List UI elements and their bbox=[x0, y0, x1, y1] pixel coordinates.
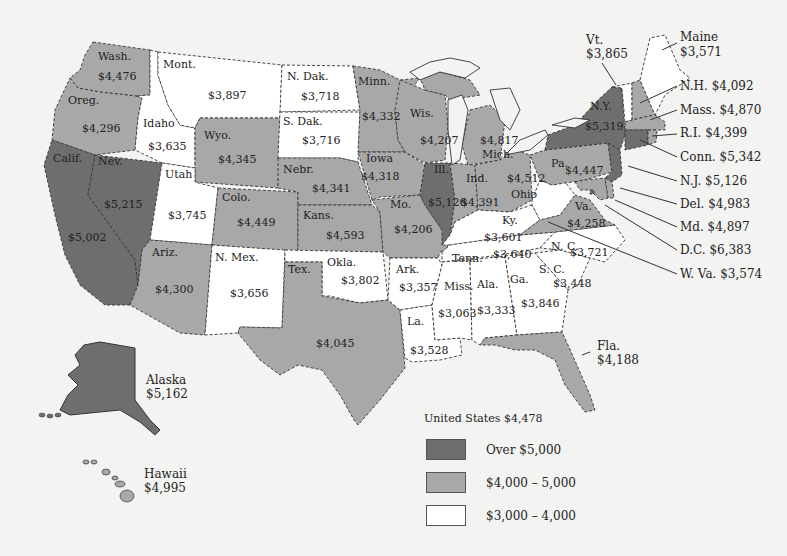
label-hawaii: Hawaii bbox=[144, 467, 187, 481]
label-vt: Vt. bbox=[585, 33, 603, 47]
value-fla: $4,188 bbox=[597, 353, 639, 367]
label-wyo: Wyo. bbox=[204, 129, 231, 142]
label-miss: Miss. bbox=[444, 280, 474, 293]
label-okla: Okla. bbox=[327, 256, 356, 269]
value-sdak: $3,716 bbox=[302, 134, 341, 147]
leader-del bbox=[620, 188, 677, 204]
state-ny[interactable] bbox=[545, 87, 625, 150]
label-nev: Nev. bbox=[98, 155, 123, 168]
label-wash: Wash. bbox=[98, 50, 131, 63]
label-nebr: Nebr. bbox=[283, 163, 314, 176]
value-wash: $4,476 bbox=[98, 70, 137, 83]
state-dc[interactable] bbox=[590, 190, 594, 194]
legend-label: $4,000 – 5,000 bbox=[486, 476, 576, 490]
value-va: $4,258 bbox=[567, 217, 606, 230]
label-ark: Ark. bbox=[395, 263, 419, 276]
legend: United States $4,478 Over $5,000 $4,000 … bbox=[424, 412, 576, 532]
value-ga: $3,846 bbox=[521, 297, 560, 310]
leader-nj bbox=[628, 166, 677, 181]
label-ndak: N. Dak. bbox=[287, 70, 328, 83]
value-idaho: $3,635 bbox=[148, 140, 187, 153]
value-ala: $3,333 bbox=[477, 304, 516, 317]
label-ny: N.Y. bbox=[590, 100, 612, 113]
value-ky: $3,601 bbox=[484, 231, 523, 244]
state-hawaii[interactable] bbox=[83, 460, 134, 502]
value-ndak: $3,718 bbox=[301, 90, 340, 103]
callout-wva: W. Va. $3,574 bbox=[680, 267, 763, 281]
label-ohio: Ohio bbox=[511, 188, 538, 201]
label-wis: Wis. bbox=[410, 107, 434, 120]
value-ariz: $4,300 bbox=[155, 283, 194, 296]
leader-vt bbox=[602, 63, 616, 85]
label-ariz: Ariz. bbox=[151, 246, 178, 259]
value-nc: $3,721 bbox=[570, 246, 609, 259]
legend-swatch-dark bbox=[426, 439, 466, 460]
value-ny: $5,319 bbox=[585, 120, 624, 133]
value-oreg: $4,296 bbox=[82, 122, 121, 135]
value-la: $3,528 bbox=[410, 344, 449, 357]
callout-ri: R.I. $4,399 bbox=[680, 126, 747, 140]
leader-fla bbox=[582, 352, 590, 355]
legend-item-over-5000: Over $5,000 bbox=[424, 433, 576, 466]
value-pa: $4,447 bbox=[565, 164, 604, 177]
value-ohio: $4,512 bbox=[507, 172, 546, 185]
label-maine: Maine bbox=[680, 30, 718, 44]
label-idaho: Idaho bbox=[143, 117, 175, 130]
value-nev: $5,215 bbox=[104, 198, 143, 211]
label-tex: Tex. bbox=[288, 263, 311, 276]
value-wyo: $4,345 bbox=[218, 153, 257, 166]
callout-conn: Conn. $5,342 bbox=[680, 150, 761, 164]
callout-dc: D.C. $6,383 bbox=[680, 243, 751, 257]
value-calif: $5,002 bbox=[68, 231, 107, 244]
label-sc: S. C. bbox=[539, 263, 565, 276]
callout-del: Del. $4,983 bbox=[680, 197, 750, 211]
label-alaska: Alaska bbox=[145, 373, 186, 387]
legend-item-4000-5000: $4,000 – 5,000 bbox=[424, 466, 576, 499]
value-nebr: $4,341 bbox=[312, 182, 351, 195]
label-oreg: Oreg. bbox=[68, 94, 99, 107]
value-utah: $3,745 bbox=[168, 209, 207, 222]
callout-nj: N.J. $5,126 bbox=[680, 174, 747, 188]
label-minn: Minn. bbox=[358, 75, 390, 88]
value-hawaii: $4,995 bbox=[144, 481, 186, 495]
value-wis: $4,207 bbox=[420, 134, 459, 147]
callout-nh: N.H. $4,092 bbox=[680, 79, 754, 93]
label-sdak: S. Dak. bbox=[283, 115, 323, 128]
legend-swatch-medium bbox=[426, 472, 466, 493]
value-ind: $4,391 bbox=[461, 196, 500, 209]
value-tex: $4,045 bbox=[316, 337, 355, 350]
callout-md: Md. $4,897 bbox=[680, 220, 750, 234]
legend-swatch-light bbox=[426, 505, 466, 526]
label-ga: Ga. bbox=[510, 273, 529, 286]
state-fla[interactable] bbox=[480, 332, 595, 412]
label-calif: Calif. bbox=[53, 152, 82, 165]
value-tenn: $3,640 bbox=[493, 248, 532, 261]
label-mo: Mo. bbox=[390, 198, 411, 211]
label-nmex: N. Mex. bbox=[215, 251, 258, 264]
value-okla: $3,802 bbox=[341, 274, 380, 287]
value-kans: $4,593 bbox=[326, 229, 365, 242]
state-conn[interactable] bbox=[625, 130, 648, 150]
state-ri[interactable] bbox=[648, 130, 657, 145]
label-mich: Mich. bbox=[482, 148, 514, 161]
value-alaska: $5,162 bbox=[146, 387, 188, 401]
value-nmex: $3,656 bbox=[230, 287, 269, 300]
leader-conn bbox=[640, 140, 677, 157]
legend-title: United States $4,478 bbox=[424, 412, 576, 425]
legend-item-3000-4000: $3,000 – 4,000 bbox=[424, 499, 576, 532]
label-iowa: Iowa bbox=[366, 152, 393, 165]
leader-md bbox=[615, 200, 677, 227]
label-kans: Kans. bbox=[303, 209, 334, 222]
value-iowa: $4,318 bbox=[361, 170, 400, 183]
state-alaska[interactable] bbox=[60, 342, 160, 435]
value-mont: $3,897 bbox=[208, 89, 247, 102]
value-miss: $3,063 bbox=[438, 307, 477, 320]
alaska-aleutians bbox=[39, 413, 61, 418]
label-ill: Ill. bbox=[434, 163, 449, 176]
label-ky: Ky. bbox=[502, 214, 518, 227]
label-utah: Utah bbox=[165, 168, 192, 181]
label-va: Va. bbox=[574, 200, 592, 213]
legend-label: Over $5,000 bbox=[486, 443, 561, 457]
callout-mass: Mass. $4,870 bbox=[680, 103, 761, 117]
value-ark: $3,357 bbox=[399, 281, 438, 294]
